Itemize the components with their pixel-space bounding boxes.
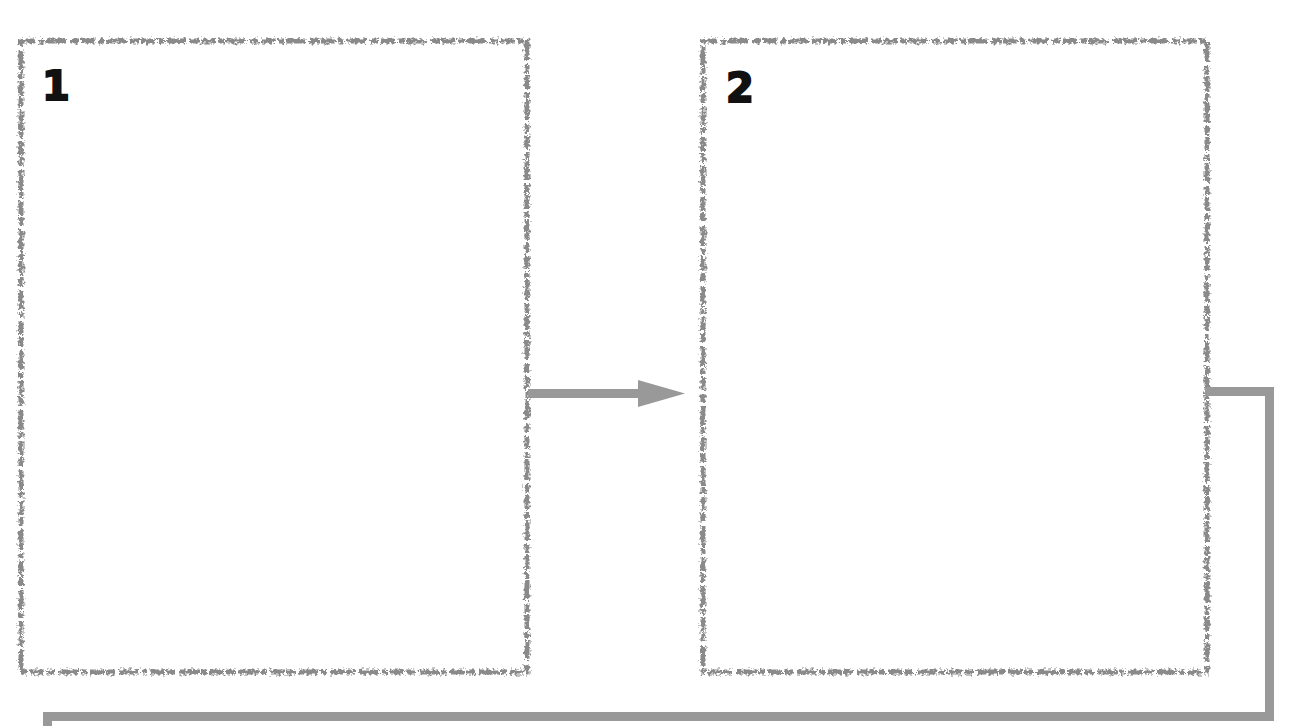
connectors [0,0,1293,726]
elbow-connector [43,387,1274,726]
arrow-right-icon [528,380,685,407]
